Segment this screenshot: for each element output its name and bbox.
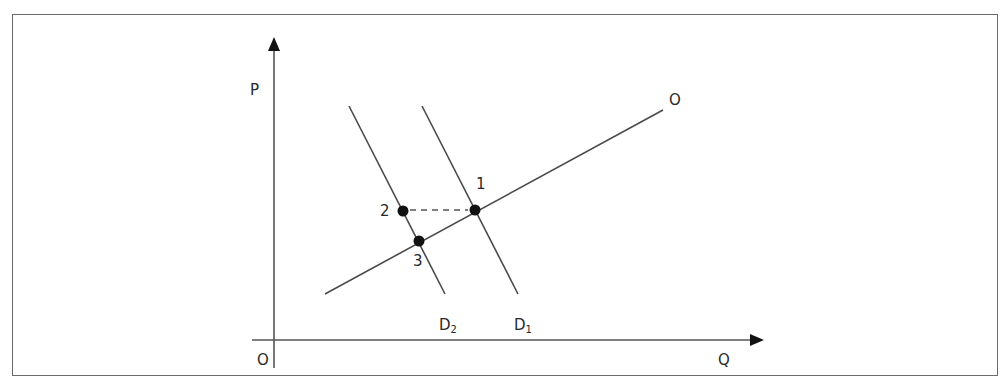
point-1-label: 1 (476, 177, 486, 192)
supply-curve (325, 110, 663, 294)
demand-d2-label-main: D (439, 316, 451, 334)
demand-d1-label-sub: 1 (526, 324, 532, 335)
x-axis-arrow-icon (750, 334, 764, 346)
supply-demand-diagram (0, 0, 1008, 390)
demand-d2-label: D2 (439, 318, 457, 335)
demand-curve-d1 (422, 106, 518, 294)
point-1 (470, 205, 481, 216)
demand-d1-label-main: D (514, 316, 526, 334)
demand-curve-d2 (349, 106, 445, 294)
y-axis-arrow-icon (268, 37, 280, 51)
demand-d1-label: D1 (514, 318, 532, 335)
y-axis-label: P (250, 83, 259, 98)
x-axis-label: Q (718, 353, 730, 368)
origin-label: O (257, 353, 269, 368)
supply-curve-label: O (669, 93, 681, 108)
point-3-label: 3 (413, 254, 423, 269)
point-2 (398, 206, 409, 217)
demand-d2-label-sub: 2 (451, 324, 457, 335)
point-2-label: 2 (380, 204, 390, 219)
point-3 (414, 236, 425, 247)
